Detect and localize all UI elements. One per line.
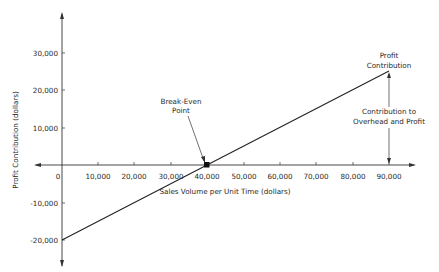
contribution-down-arrow-icon (387, 158, 391, 164)
x-tick-90000: 90,000 (376, 172, 402, 181)
x-axis-right-arrow-icon (409, 163, 416, 167)
x-tick-20000: 20,000 (121, 172, 147, 181)
y-axis-label: Profit Contribution (dollars) (11, 91, 20, 189)
contribution-label-line2: Overhead and Profit (353, 117, 425, 126)
profit-contribution-label-line1: Profit (380, 51, 399, 60)
y-axis-down-arrow-icon (60, 260, 64, 267)
contribution-up-arrow-icon (387, 72, 391, 78)
break-even-point-marker (204, 162, 210, 168)
break-even-arrow-icon (201, 156, 205, 163)
x-tick-50000: 50,000 (231, 172, 257, 181)
break-even-label-line2: Point (172, 106, 190, 115)
break-even-label-line1: Break-Even (160, 97, 201, 106)
y-axis-up-arrow-icon (60, 12, 64, 19)
x-axis-left-arrow-icon (34, 163, 41, 167)
x-tick-40000: 40,000 (194, 172, 220, 181)
y-tick-30000: 30,000 (33, 49, 59, 58)
y-tick-10000: 10,000 (33, 124, 59, 133)
y-tick-minus-20000: -20,000 (30, 236, 58, 245)
y-tick-20000: 20,000 (33, 86, 59, 95)
profit-contribution-line (62, 71, 389, 240)
x-tick-80000: 80,000 (340, 172, 366, 181)
y-tick-minus-10000: -10,000 (30, 199, 58, 208)
contribution-label-line1: Contribution to (362, 107, 416, 116)
break-even-chart: 30,000 20,000 10,000 -10,000 -20,000 0 1… (0, 0, 439, 272)
break-even-leader-line (188, 116, 204, 161)
x-tick-0: 0 (56, 172, 61, 181)
x-tick-30000: 30,000 (158, 172, 184, 181)
x-tick-60000: 60,000 (267, 172, 293, 181)
x-axis-label: Sales Volume per Unit Time (dollars) (159, 187, 290, 196)
x-tick-70000: 70,000 (303, 172, 329, 181)
profit-contribution-label-line2: Contribution (367, 61, 412, 70)
x-tick-10000: 10,000 (85, 172, 111, 181)
